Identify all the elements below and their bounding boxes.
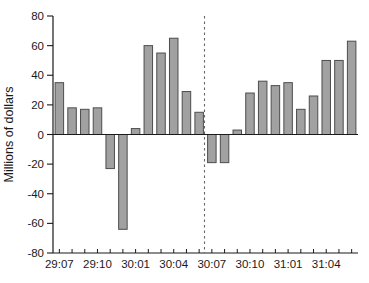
bar [182, 92, 191, 135]
bar [309, 96, 318, 135]
bar [144, 46, 153, 135]
bar-chart: 806040200-20-40-60-8029:0729:1030:0130:0… [0, 0, 369, 283]
bar [220, 135, 229, 163]
y-tick-label: 20 [31, 99, 44, 111]
x-tick-label: 30:07 [197, 258, 226, 270]
y-tick-label: -60 [27, 217, 44, 229]
bar [322, 60, 331, 134]
bar [81, 109, 90, 134]
x-tick-label: 31:04 [312, 258, 341, 270]
x-tick-label: 30:04 [159, 258, 188, 270]
bar [106, 135, 115, 169]
y-tick-label: -40 [27, 188, 44, 200]
bar [195, 112, 204, 134]
bar [284, 83, 293, 135]
bar [297, 109, 306, 134]
y-tick-label: -20 [27, 158, 44, 170]
bar [233, 130, 242, 134]
y-tick-label: 80 [31, 10, 44, 22]
bar [246, 93, 255, 134]
bar [271, 86, 280, 135]
x-tick-label: 29:07 [45, 258, 74, 270]
bar [55, 83, 64, 135]
bar [169, 38, 178, 134]
figure: 806040200-20-40-60-8029:0729:1030:0130:0… [0, 0, 369, 283]
y-tick-label: -80 [27, 247, 44, 259]
x-tick-label: 30:01 [121, 258, 150, 270]
bar [157, 53, 166, 134]
x-tick-label: 29:10 [83, 258, 112, 270]
y-axis-title: Millions of dollars [2, 87, 16, 183]
y-tick-label: 40 [31, 69, 44, 81]
bar [93, 108, 102, 135]
bar [335, 60, 344, 134]
bar [131, 129, 140, 135]
bar [347, 41, 356, 134]
y-tick-label: 60 [31, 40, 44, 52]
bar [258, 81, 267, 134]
x-tick-label: 30:10 [236, 258, 265, 270]
bar [208, 135, 217, 163]
bar [68, 108, 77, 135]
y-tick-label: 0 [38, 129, 44, 141]
bar [119, 135, 128, 230]
x-tick-label: 31:01 [274, 258, 303, 270]
